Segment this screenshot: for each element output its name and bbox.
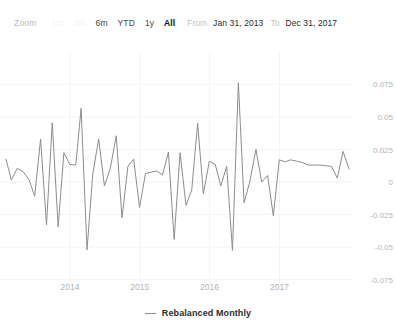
gridlines	[0, 52, 352, 282]
range-button-ytd[interactable]: YTD	[113, 18, 140, 28]
range-button-1y[interactable]: 1y	[140, 18, 159, 28]
x-tick-label: 2015	[130, 282, 149, 291]
x-tick-label: 2014	[61, 282, 80, 291]
x-tick-label: 2017	[270, 282, 289, 291]
y-tick-label: 0.025	[373, 146, 394, 155]
legend-item-label[interactable]: Rebalanced Monthly	[162, 308, 251, 318]
y-tick-label: -0.075	[370, 276, 393, 285]
to-label: To	[263, 18, 285, 28]
data-series-group	[6, 83, 349, 250]
y-tick-label: -0.05	[375, 243, 394, 252]
range-button-6m[interactable]: 6m	[91, 18, 113, 28]
chart-legend: Rebalanced Monthly	[0, 303, 396, 323]
x-tick-label: 2016	[200, 282, 219, 291]
from-date-input[interactable]: Jan 31, 2013	[213, 18, 263, 28]
range-button-3m[interactable]: 3m	[69, 18, 91, 28]
range-button-1m[interactable]: 1m	[47, 18, 69, 28]
chart-plot-area[interactable]: 0.0750.050.0250-0.025-0.05-0.075 2014201…	[0, 46, 396, 291]
x-axis-tick-labels: 2014201520162017	[61, 282, 290, 291]
from-label: From	[180, 18, 213, 28]
range-button-all[interactable]: All	[159, 18, 180, 28]
zoom-label: Zoom	[0, 18, 47, 28]
y-tick-label: -0.025	[370, 211, 393, 220]
legend-line-swatch	[145, 313, 156, 314]
range-selector-bar: Zoom 1m3m6mYTD1yAll From Jan 31, 2013 To…	[0, 14, 396, 32]
y-tick-label: 0.05	[377, 113, 393, 122]
y-tick-label: 0	[389, 178, 394, 187]
series-line[interactable]	[6, 83, 349, 250]
to-date-input[interactable]: Dec 31, 2017	[285, 18, 337, 28]
line-chart: 0.0750.050.0250-0.025-0.05-0.075 2014201…	[0, 46, 396, 291]
range-button-group: 1m3m6mYTD1yAll	[47, 18, 181, 28]
y-tick-label: 0.075	[373, 80, 394, 89]
y-axis-tick-labels: 0.0750.050.0250-0.025-0.05-0.075	[370, 80, 393, 284]
